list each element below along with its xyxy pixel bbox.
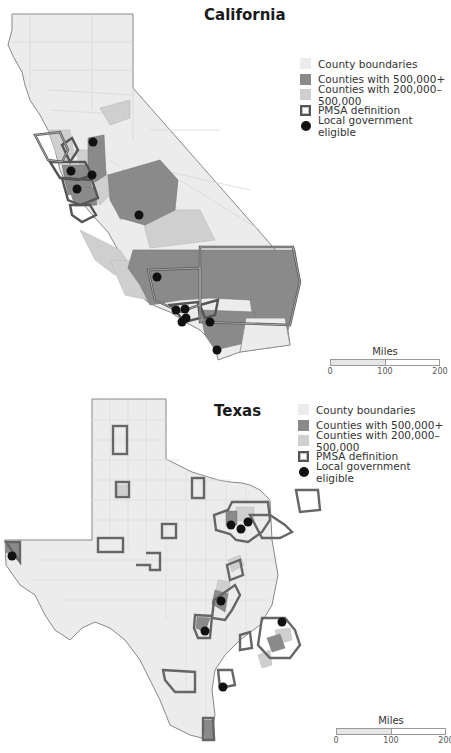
legend-item-200k: Counties with 200,000–500,000: [298, 433, 451, 449]
legend-item-200k: Counties with 200,000–500,000: [300, 87, 451, 103]
dot-icon: [299, 467, 309, 477]
county-swatch-icon: [300, 58, 311, 69]
pmsa-swatch-icon: [300, 105, 311, 116]
texas-outline: [5, 399, 278, 740]
legend-item-eligible: Local government eligible: [300, 118, 451, 134]
california-panel: California County boundaries Counties wi…: [0, 0, 451, 390]
legend-item-county: County boundaries: [300, 56, 451, 72]
texas-title: Texas: [214, 402, 261, 420]
california-legend: County boundaries Counties with 500,000+…: [300, 56, 451, 134]
texas-panel: Texas County boundaries Counties with 50…: [0, 390, 451, 753]
dot-icon: [301, 121, 311, 131]
county-swatch-icon: [298, 404, 309, 415]
legend-item-county: County boundaries: [298, 402, 451, 418]
200k-swatch-icon: [298, 435, 309, 446]
pmsa-swatch-icon: [298, 451, 309, 462]
500k-swatch-icon: [298, 420, 309, 431]
500k-swatch-icon: [300, 74, 311, 85]
texas-legend: County boundaries Counties with 500,000+…: [298, 402, 451, 480]
california-title: California: [204, 6, 286, 24]
legend-item-eligible: Local government eligible: [298, 464, 451, 480]
texas-scale-bar: Miles 0 100 200: [336, 715, 446, 746]
200k-swatch-icon: [300, 89, 311, 100]
california-scale-bar: Miles 0 100 200: [330, 346, 440, 377]
